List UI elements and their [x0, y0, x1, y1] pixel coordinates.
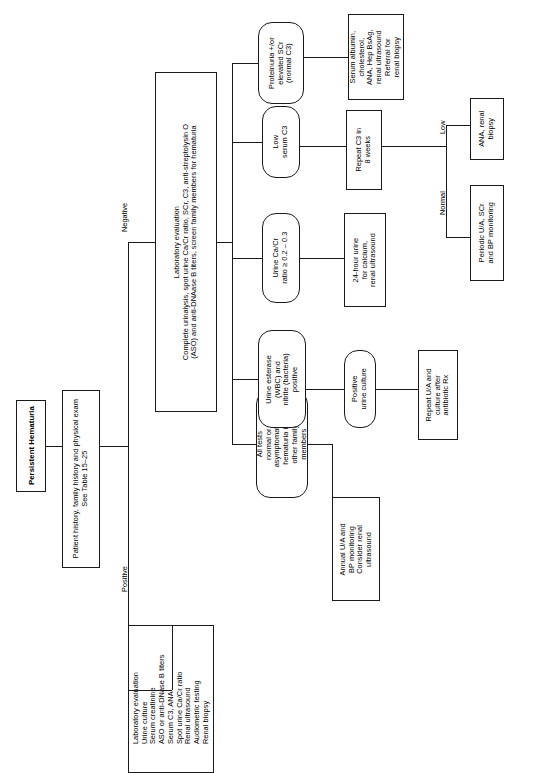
node-start: Persistent Hematuria — [16, 400, 46, 492]
edge-label-negative: Negative — [120, 203, 129, 232]
edge-esterase-culture — [306, 389, 344, 390]
edge-negative — [128, 242, 155, 243]
edge-history-bus — [128, 242, 129, 690]
node-repeat-ua: Repeat U/A and culture after antibiotic … — [418, 350, 458, 440]
edge-bus-urine-esterase — [232, 379, 258, 380]
node-repeat-c3: Repeat C3 in 8 weeks — [346, 110, 382, 190]
edge-label-low: Low — [438, 120, 447, 134]
node-lab-eval-list: Laboratory evaluation Urine culture Seru… — [128, 625, 214, 773]
node-serum-albumin-label: Serum albumin, cholesterol, ANA, Hep BsA… — [350, 29, 402, 84]
edge-all-tests-annual-v — [332, 444, 333, 497]
edge-bus-urine-cacr — [232, 258, 262, 259]
edge-positive-stub — [172, 625, 173, 690]
node-positive-urine-culture: Positive urine culture — [344, 350, 376, 428]
node-lab-eval-list-label: Laboratory evaluation Urine culture Seru… — [132, 654, 211, 744]
node-annual-ua-label: Annual U/A and BP monitoring Consider re… — [339, 523, 374, 575]
edge-all-tests-annual — [308, 444, 332, 445]
edge-positive — [128, 690, 172, 691]
edge-culture-repeat — [376, 389, 418, 390]
node-serum-albumin: Serum albumin, cholesterol, ANA, Hep BsA… — [348, 14, 404, 100]
node-low-c3-label: Low serum C3 — [272, 126, 289, 158]
node-proteinuria-label: Proteinuria +/or elevated SCr (normal C3… — [268, 37, 294, 89]
node-urine-cacr-label: Urine Ca/Cr ratio ≥ 0.2 – 0.3 — [272, 232, 289, 284]
node-ana-renal-biopsy: ANA, renal biopsy — [470, 98, 504, 160]
node-lab-eval-negative: Laboratory evaluation Complete urinalysi… — [155, 72, 217, 412]
edge-lowc3-repeatc3 — [300, 146, 346, 147]
edge-normal-branch — [446, 237, 470, 238]
edge-label-positive: Positive — [120, 566, 129, 592]
node-periodic-ua-label: Periodic U/A, SCr and BP monitoring — [478, 202, 495, 264]
edge-low-branch — [446, 125, 470, 126]
node-urine-cacr: Urine Ca/Cr ratio ≥ 0.2 – 0.3 — [262, 213, 300, 303]
edge-repeatc3-out — [382, 146, 446, 147]
edge-bus-all-tests — [232, 444, 256, 445]
edge-cacr-24h — [300, 258, 344, 259]
node-urine-24h: 24-hour urine for calcium, renal ultraso… — [344, 213, 386, 307]
node-lab-eval-negative-label: Laboratory evaluation Complete urinalysi… — [173, 124, 199, 360]
node-start-label: Persistent Hematuria — [26, 407, 35, 486]
node-urine-24h-label: 24-hour urine for calcium, renal ultraso… — [352, 233, 378, 287]
node-positive-urine-culture-label: Positive urine culture — [351, 368, 368, 409]
edge-proteinuria-albumin — [304, 57, 348, 58]
edge-history-out — [100, 446, 128, 447]
edge-label-normal: Normal — [438, 191, 447, 215]
node-urine-esterase: Urine esterase (WBC) and nitrite (bacter… — [258, 330, 306, 428]
node-annual-ua: Annual U/A and BP monitoring Consider re… — [332, 497, 380, 601]
node-patient-history-label: Patient history, family history and phys… — [72, 399, 89, 558]
edge-bus-low-c3 — [232, 142, 262, 143]
node-periodic-ua: Periodic U/A, SCr and BP monitoring — [470, 185, 504, 281]
node-repeat-c3-label: Repeat C3 in 8 weeks — [355, 128, 372, 172]
node-ana-renal-biopsy-label: ANA, renal biopsy — [478, 111, 495, 147]
node-patient-history: Patient history, family history and phys… — [62, 390, 100, 568]
edge-lab-to-bus — [217, 242, 232, 243]
node-proteinuria: Proteinuria +/or elevated SCr (normal C3… — [258, 22, 304, 104]
edge-lab-split-bus — [232, 63, 233, 445]
node-low-c3: Low serum C3 — [262, 106, 300, 178]
edge-bus-proteinuria — [232, 63, 258, 64]
node-urine-esterase-label: Urine esterase (WBC) and nitrite (bacter… — [265, 353, 300, 405]
node-repeat-ua-label: Repeat U/A and culture after antibiotic … — [425, 369, 451, 422]
edge-start-history — [46, 446, 62, 447]
flowchart-canvas: Persistent Hematuria Patient history, fa… — [0, 0, 547, 773]
edge-repeatc3-bus — [446, 125, 447, 237]
